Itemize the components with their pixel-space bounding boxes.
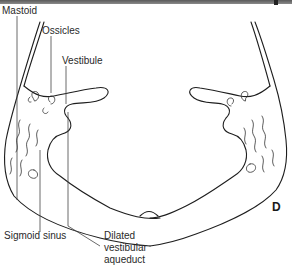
label-dilated-vestibular-aqueduct-1: Dilated: [104, 230, 135, 242]
midline-contour: [140, 212, 158, 217]
label-mastoid: Mastoid: [2, 5, 37, 17]
label-ossicles: Ossicles: [42, 25, 80, 37]
label-sigmoid-sinus: Sigmoid sinus: [4, 230, 66, 242]
right-temporal-bone: [150, 22, 287, 246]
panel-letter: D: [272, 200, 281, 214]
label-vestibule: Vestibule: [62, 55, 103, 67]
label-dilated-vestibular-aqueduct-2: vestibular: [104, 242, 147, 254]
label-dilated-vestibular-aqueduct-3: aqueduct: [104, 254, 145, 266]
vestibular-aqueduct-leader: [68, 112, 100, 246]
leader-lines: [17, 16, 100, 246]
